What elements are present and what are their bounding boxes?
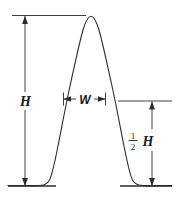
half-height-fraction-numerator: 1 [131, 131, 136, 141]
height-label: H [19, 94, 32, 109]
width-arrow-right-icon [98, 96, 106, 101]
height-arrow-down-icon [22, 178, 28, 186]
half-height-arrow-down-icon [149, 178, 155, 186]
diagram-canvas: H W 1 2 H [0, 0, 180, 198]
half-height-fraction-denominator: 2 [131, 142, 136, 152]
height-arrow-up-icon [22, 16, 28, 24]
peak-width-diagram: H W 1 2 H [0, 0, 180, 198]
width-label: W [79, 93, 92, 107]
half-height-label: H [142, 134, 155, 149]
half-height-arrow-up-icon [149, 102, 155, 110]
